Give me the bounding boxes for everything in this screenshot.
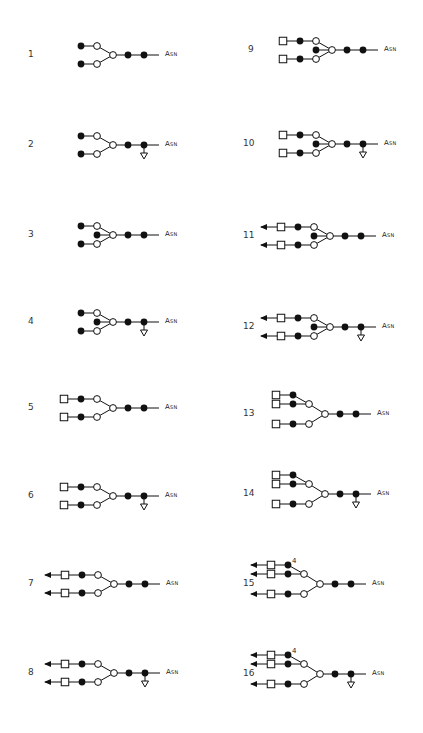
core-mannose-node xyxy=(317,671,324,678)
asn-label: Asn xyxy=(372,669,385,677)
fucose-node xyxy=(348,682,355,688)
sialic-acid-arrow xyxy=(44,679,51,685)
fucose-node xyxy=(142,681,149,687)
gal-node xyxy=(267,660,275,668)
sialic-acid-arrow xyxy=(250,661,257,667)
sialic-acid-arrow xyxy=(44,661,51,667)
mannose-node xyxy=(301,661,308,668)
core-glcnac-node xyxy=(126,670,133,677)
gal-node xyxy=(61,678,69,686)
mannose-node xyxy=(301,681,308,688)
mannose-node xyxy=(95,679,102,686)
gal-node xyxy=(267,680,275,688)
glycan-diagram xyxy=(0,0,208,733)
linkage-label: 4 xyxy=(292,647,296,655)
glcnac-node xyxy=(79,679,86,686)
sialic-acid-arrow xyxy=(250,652,257,658)
gal-node xyxy=(61,660,69,668)
core-glcnac-node xyxy=(332,671,339,678)
asn-label: Asn xyxy=(166,668,179,676)
gal-node xyxy=(267,651,275,659)
glcnac-node xyxy=(285,661,292,668)
glcnac-node xyxy=(285,652,292,659)
glcnac-node xyxy=(79,661,86,668)
glcnac-node xyxy=(285,681,292,688)
glycan-diagram xyxy=(215,0,423,733)
core-mannose-node xyxy=(111,670,118,677)
sialic-acid-arrow xyxy=(250,681,257,687)
mannose-node xyxy=(95,661,102,668)
